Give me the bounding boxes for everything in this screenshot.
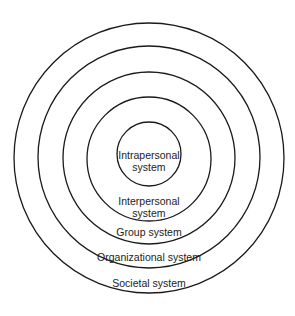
label-group: Group system [116,226,182,238]
label-societal: Societal system [112,277,186,289]
concentric-systems-diagram: Intrapersonal system Interpersonal syste… [0,0,295,316]
label-intrapersonal-line1: Intrapersonal [118,149,179,161]
label-organizational: Organizational system [97,251,201,263]
label-interpersonal-line1: Interpersonal [118,195,179,207]
label-intrapersonal-line2: system [132,161,166,173]
label-interpersonal-line2: system [132,207,166,219]
